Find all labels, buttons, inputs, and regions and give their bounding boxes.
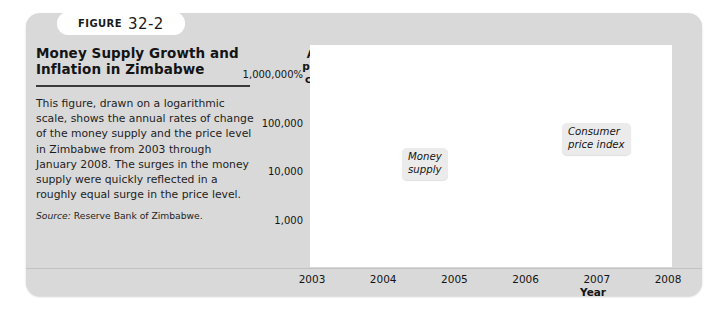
x-tick-label: 2007 [583,273,610,285]
x-axis-title: Year [580,286,606,298]
figure-title: Money Supply Growth and Inflation in Zim… [36,45,254,77]
source-label: Source: [36,210,71,221]
plot-background [310,45,672,267]
plot-area: 1,000,000%100,00010,0001,000 20032004200… [310,45,672,267]
title-rule [36,85,250,87]
chart: Annual percent change 1,000,000%100,0001… [258,40,678,270]
annotation-consumer-price-index: Consumer price index [562,123,631,155]
x-tick-label: 2008 [655,273,682,285]
source-text: Reserve Bank of Zimbabwe. [71,210,203,221]
y-tick-label: 100,000 [262,117,303,128]
figure-container: FIGURE 32-2 Money Supply Growth and Infl… [0,0,724,309]
annotation-money-supply: Money supply [402,148,448,180]
y-tick-label: 1,000,000% [243,69,303,80]
figure-source: Source: Reserve Bank of Zimbabwe. [36,209,254,222]
figure-number-tab: FIGURE 32-2 [57,12,185,35]
y-tick-label: 10,000 [268,166,303,177]
x-tick-label: 2006 [512,273,539,285]
figure-number: 32-2 [128,15,164,33]
figure-description: This figure, drawn on a logarithmic scal… [36,96,254,202]
x-tick-label: 2003 [299,273,326,285]
figure-label: FIGURE [78,18,122,29]
x-tick-label: 2005 [441,273,468,285]
figure-text-column: Money Supply Growth and Inflation in Zim… [36,45,254,222]
x-tick-label: 2004 [370,273,397,285]
y-tick-label: 1,000 [274,214,303,225]
